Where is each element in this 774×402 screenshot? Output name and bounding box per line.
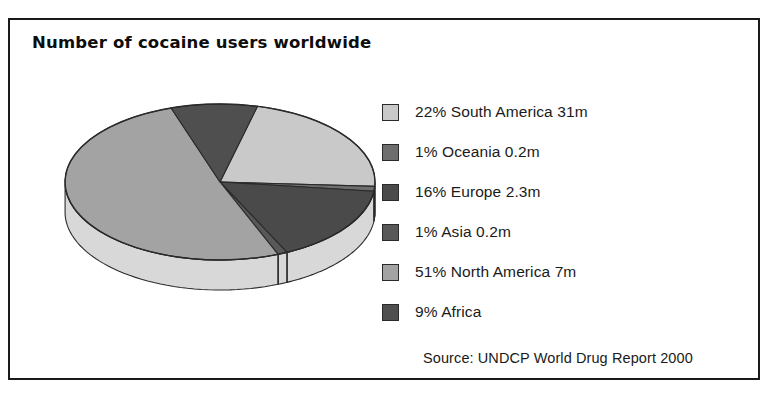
page-title: Number of cocaine users worldwide — [32, 33, 371, 52]
legend-label: 1% Asia 0.2m — [415, 223, 511, 241]
legend-swatch-asia — [382, 224, 399, 241]
legend-label: 9% Africa — [415, 303, 481, 321]
pie-chart-svg — [32, 90, 382, 310]
legend-swatch-south-america — [382, 104, 399, 121]
chart-frame: Number of cocaine users worldwide 22% So… — [8, 18, 760, 380]
legend-label: 51% North America 7m — [415, 263, 576, 281]
legend-item: 51% North America 7m — [382, 252, 732, 292]
legend-swatch-north-america — [382, 264, 399, 281]
legend-label: 1% Oceania 0.2m — [415, 143, 540, 161]
legend-label: 22% South America 31m — [415, 103, 588, 121]
legend-item: 1% Oceania 0.2m — [382, 132, 732, 172]
legend-swatch-oceania — [382, 144, 399, 161]
chart-legend: 22% South America 31m 1% Oceania 0.2m 16… — [382, 92, 732, 332]
legend-item: 16% Europe 2.3m — [382, 172, 732, 212]
source-note: Source: UNDCP World Drug Report 2000 — [423, 350, 693, 366]
pie-chart — [32, 90, 382, 310]
legend-item: 1% Asia 0.2m — [382, 212, 732, 252]
legend-swatch-europe — [382, 184, 399, 201]
legend-swatch-africa — [382, 304, 399, 321]
legend-item: 9% Africa — [382, 292, 732, 332]
pie-top-faces — [65, 104, 375, 260]
legend-item: 22% South America 31m — [382, 92, 732, 132]
legend-label: 16% Europe 2.3m — [415, 183, 541, 201]
